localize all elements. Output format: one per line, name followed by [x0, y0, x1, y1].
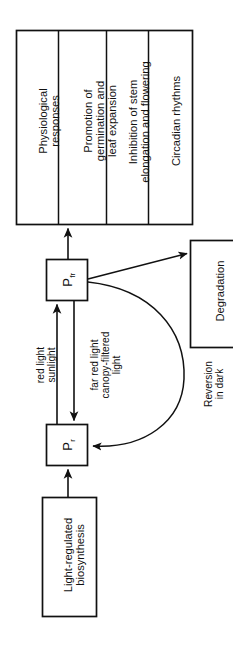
pr-box-outline — [47, 425, 88, 466]
arrow-pfr-to-degradation — [88, 254, 187, 280]
pfr-box-outline — [47, 260, 88, 301]
arrow-reversion-in-dark — [88, 282, 184, 446]
biosynthesis-box-outline — [43, 498, 97, 617]
response-panel-outline — [17, 31, 193, 225]
diagram-line-art — [0, 0, 233, 658]
degradation-box-outline — [191, 241, 234, 348]
diagram-canvas: Physiological responses Promotion of ger… — [0, 0, 233, 658]
